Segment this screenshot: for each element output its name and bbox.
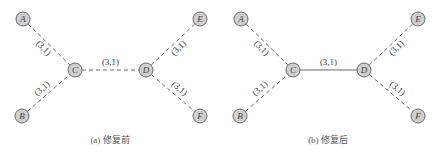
- edge-label: (3,1): [102, 57, 119, 67]
- node-a: A: [16, 12, 30, 26]
- node-b: B: [233, 109, 247, 123]
- node-label: A: [237, 14, 244, 24]
- node-label: F: [196, 111, 203, 121]
- panel-caption: (a) 修复前: [90, 134, 129, 145]
- node-label: A: [19, 14, 26, 24]
- node-label: C: [72, 65, 79, 75]
- edge-label: (3,1): [320, 57, 337, 67]
- edge-label: (3,1): [32, 79, 52, 98]
- node-a: A: [234, 12, 248, 26]
- node-label: E: [196, 14, 203, 24]
- edge-d-f: [369, 75, 412, 112]
- panel-caption: (b) 修复后: [308, 134, 348, 145]
- node-f: F: [193, 109, 207, 123]
- edge-d-e: [151, 24, 195, 65]
- node-label: C: [290, 65, 297, 75]
- node-b: B: [15, 109, 29, 123]
- edge-label: (3,1): [250, 79, 270, 98]
- panel-after-repair: (3,1)(3,1)(3,1)(3,1)(3,1)ABCDEF(b) 修复后: [233, 12, 425, 145]
- node-label: B: [19, 111, 25, 121]
- node-label: F: [414, 111, 421, 121]
- node-c: C: [68, 63, 82, 77]
- edge-label: (3,1): [388, 79, 408, 98]
- node-e: E: [411, 12, 425, 26]
- node-label: E: [414, 14, 421, 24]
- edge-d-f: [151, 75, 194, 112]
- node-f: F: [411, 109, 425, 123]
- node-label: B: [237, 111, 243, 121]
- edge-label: (3,1): [170, 79, 190, 98]
- node-c: C: [286, 63, 300, 77]
- node-label: D: [360, 65, 368, 75]
- node-d: D: [139, 63, 153, 77]
- network-repair-diagram: (3,1)(3,1)(3,1)(3,1)(3,1)ABCDEF(a) 修复前 (…: [0, 0, 436, 156]
- edge-label: (3,1): [252, 38, 271, 57]
- node-label: D: [142, 65, 150, 75]
- edge-label: (3,1): [169, 38, 188, 57]
- edge-label: (3,1): [387, 38, 406, 57]
- edge-d-e: [369, 24, 413, 65]
- node-e: E: [193, 12, 207, 26]
- edge-label: (3,1): [34, 38, 53, 57]
- panel-before-repair: (3,1)(3,1)(3,1)(3,1)(3,1)ABCDEF(a) 修复前: [15, 12, 207, 145]
- node-d: D: [357, 63, 371, 77]
